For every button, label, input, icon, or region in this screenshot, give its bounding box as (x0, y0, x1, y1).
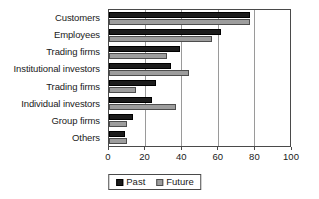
bar-past (109, 114, 133, 120)
legend-swatch-icon (156, 179, 163, 186)
bar-past (109, 12, 250, 18)
legend-label: Past (126, 177, 145, 187)
bar-group (109, 112, 290, 129)
bar-past (109, 97, 152, 103)
legend-entry: Past (116, 177, 145, 187)
bar-past (109, 46, 180, 52)
category-label: Institutional investors (14, 61, 104, 78)
category-label: Others (72, 130, 104, 147)
axis-tick (108, 147, 109, 150)
axis-tick (291, 147, 292, 150)
bar-future (109, 87, 136, 93)
legend-entry: Future (156, 177, 193, 187)
bar-past (109, 80, 156, 86)
bar-future (109, 104, 176, 110)
bar-future (109, 121, 127, 127)
category-label: Customers (55, 9, 104, 26)
bar-group (109, 61, 290, 78)
plot-area (108, 9, 291, 147)
axis-tick-label: 0 (105, 151, 110, 162)
bar-group (109, 10, 290, 27)
bar-group (109, 27, 290, 44)
axis-tick-label: 40 (176, 151, 187, 162)
bar-groups (109, 10, 290, 146)
axis-tick (144, 147, 145, 150)
category-label: Trading firms (46, 78, 104, 95)
bar-future (109, 53, 167, 59)
category-label: Employees (54, 26, 104, 43)
bar-group (109, 44, 290, 61)
legend-label: Future (166, 177, 193, 187)
axis-tick-label: 100 (283, 151, 299, 162)
axis-tick-label: 60 (213, 151, 224, 162)
bar-future (109, 70, 189, 76)
bar-future (109, 19, 250, 25)
bar-past (109, 63, 171, 69)
bar-group (109, 95, 290, 112)
value-axis: 020406080100 (108, 147, 291, 165)
category-label: Trading firms (46, 44, 104, 61)
category-label: Group firms (51, 113, 104, 130)
axis-tick-label: 80 (249, 151, 260, 162)
axis-tick-label: 20 (139, 151, 150, 162)
category-label: Individual investors (21, 95, 104, 112)
horizontal-bar-chart: CustomersEmployeesTrading firmsInstituti… (0, 0, 319, 199)
bar-group (109, 129, 290, 146)
bar-past (109, 29, 221, 35)
legend-swatch-icon (116, 179, 123, 186)
axis-tick (181, 147, 182, 150)
bar-future (109, 138, 127, 144)
axis-tick (217, 147, 218, 150)
bar-past (109, 131, 125, 137)
chart-legend: PastFuture (108, 174, 201, 190)
bar-group (109, 78, 290, 95)
category-axis: CustomersEmployeesTrading firmsInstituti… (0, 9, 104, 147)
bar-future (109, 36, 212, 42)
axis-tick (254, 147, 255, 150)
